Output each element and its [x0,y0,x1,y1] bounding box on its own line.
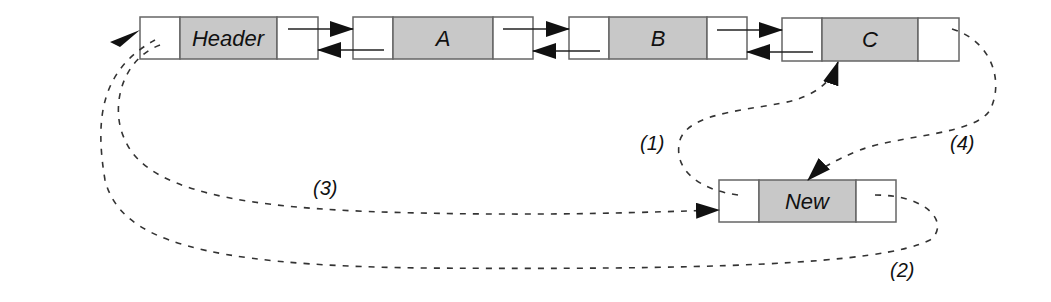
step4-label: (4) [950,132,974,154]
node-b: B [569,17,747,59]
step2-arrowhead [110,30,140,47]
step2-label: (2) [890,259,914,281]
step1-label: (1) [640,132,664,154]
step3-path [118,45,719,214]
node-header-label: Header [192,26,266,51]
node-b-label: B [651,26,666,51]
node-new: New [719,180,896,222]
node-a-label: A [434,26,451,51]
linked-list-diagram: Header A B C New [0,0,1051,302]
dashed-links [101,29,996,268]
node-a: A [353,17,533,59]
step2-path [101,40,938,268]
step3-label: (3) [313,177,337,199]
node-c-label: C [862,27,878,52]
node-c: C [782,18,959,61]
node-new-label: New [785,189,831,214]
node-header: Header [140,17,318,59]
step1-path [679,62,838,195]
